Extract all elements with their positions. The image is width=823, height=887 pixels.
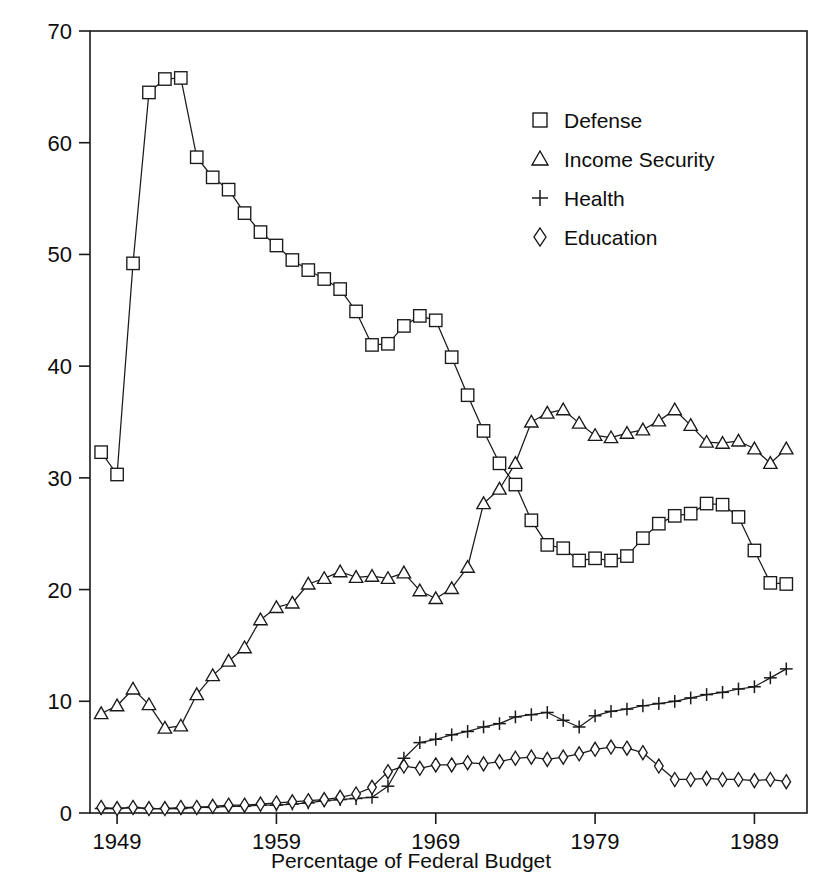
legend-label: Education (564, 226, 657, 249)
data-point-square (557, 542, 569, 554)
data-point-triangle (493, 482, 506, 494)
data-point-diamond (495, 755, 504, 769)
data-point-triangle (780, 442, 793, 454)
data-point-square (493, 457, 505, 469)
data-point-diamond (479, 757, 488, 771)
y-tick-label: 40 (48, 354, 72, 379)
x-tick-label: 1949 (93, 829, 142, 854)
data-point-diamond (670, 772, 679, 786)
data-point-triangle (636, 423, 649, 435)
legend-marker-square-icon (533, 113, 547, 127)
series-markers (95, 662, 793, 814)
data-point-plus (557, 714, 570, 727)
series-income-security (94, 403, 793, 733)
data-point-plus (668, 695, 681, 708)
data-point-square (414, 310, 426, 322)
chart-legend: DefenseIncome SecurityHealthEducation (532, 109, 715, 249)
data-point-triangle (509, 457, 522, 469)
data-point-plus (621, 703, 634, 716)
data-point-square (780, 578, 792, 590)
legend-item-health[interactable]: Health (532, 187, 625, 210)
data-point-square (286, 254, 298, 266)
data-point-plus (636, 699, 649, 712)
data-point-diamond (447, 758, 456, 772)
series-education (97, 740, 791, 815)
data-point-square (461, 389, 473, 401)
data-point-diamond (718, 772, 727, 786)
x-tick-label: 1979 (571, 829, 620, 854)
data-point-triangle (732, 434, 745, 446)
data-point-square (430, 314, 442, 326)
data-point-diamond (256, 797, 265, 811)
data-point-square (254, 226, 266, 238)
data-point-diamond (431, 758, 440, 772)
x-axis-title: Percentage of Federal Budget (271, 849, 551, 872)
data-point-square (191, 151, 203, 163)
data-point-square (621, 550, 633, 562)
data-point-diamond (734, 772, 743, 786)
data-point-square (206, 171, 218, 183)
data-point-diamond (654, 759, 663, 773)
data-point-square (445, 351, 457, 363)
data-point-plus (541, 706, 554, 719)
data-point-triangle (222, 654, 235, 666)
data-point-diamond (511, 751, 520, 765)
x-tick-label: 1989 (730, 829, 779, 854)
chart-container: 010203040506070 19491959196919791989 Def… (0, 0, 823, 887)
data-point-square (222, 183, 234, 195)
series-line (101, 669, 786, 809)
data-point-square (764, 577, 776, 589)
data-point-plus (525, 708, 538, 721)
data-point-square (525, 514, 537, 526)
y-tick-label: 0 (60, 801, 72, 826)
legend-label: Income Security (564, 148, 715, 171)
data-point-plus (732, 683, 745, 696)
data-point-square (509, 478, 521, 490)
data-point-plus (573, 721, 586, 734)
data-point-square (318, 273, 330, 285)
legend-item-income-security[interactable]: Income Security (532, 148, 715, 171)
data-point-square (334, 283, 346, 295)
data-point-diamond (559, 750, 568, 764)
data-point-diamond (766, 772, 775, 786)
data-point-square (95, 446, 107, 458)
y-tick-label: 60 (48, 131, 72, 156)
data-point-square (541, 539, 553, 551)
data-point-plus (429, 733, 442, 746)
data-point-diamond (686, 772, 695, 786)
data-point-plus (748, 680, 761, 693)
data-point-triangle (333, 565, 346, 577)
data-point-square (653, 517, 665, 529)
data-point-plus (509, 711, 522, 724)
data-point-triangle (126, 682, 139, 694)
data-point-square (684, 507, 696, 519)
legend-item-defense[interactable]: Defense (533, 109, 642, 132)
legend-label: Health (564, 187, 625, 210)
data-point-plus (700, 688, 713, 701)
series-line (101, 410, 786, 728)
data-point-triangle (174, 719, 187, 731)
data-point-triangle (238, 641, 251, 653)
legend-marker-triangle-icon (532, 151, 548, 165)
data-point-diamond (224, 798, 233, 812)
data-point-triangle (445, 582, 458, 594)
data-point-plus (589, 709, 602, 722)
data-point-square (477, 425, 489, 437)
series-markers (94, 403, 793, 733)
y-tick-label: 10 (48, 689, 72, 714)
data-point-plus (493, 717, 506, 730)
data-point-triangle (525, 415, 538, 427)
data-point-square (732, 511, 744, 523)
data-point-triangle (318, 572, 331, 584)
data-point-diamond (208, 799, 217, 813)
legend-label: Defense (564, 109, 642, 132)
series-markers (97, 740, 791, 815)
data-point-diamond (320, 793, 329, 807)
data-point-diamond (384, 765, 393, 779)
legend-item-education[interactable]: Education (534, 226, 657, 249)
data-point-plus (461, 725, 474, 738)
data-point-square (111, 468, 123, 480)
data-point-triangle (588, 429, 601, 441)
data-point-square (350, 305, 362, 317)
series-health (95, 662, 793, 814)
